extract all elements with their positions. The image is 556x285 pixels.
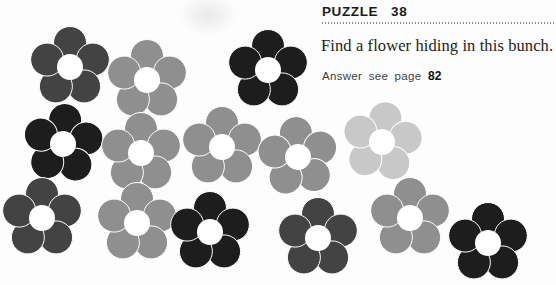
flower-dark-gray[interactable]: [276, 196, 360, 280]
flower-black[interactable]: [168, 190, 252, 274]
puzzle-title: PUZZLE 38: [322, 4, 556, 19]
flower-icon: [21, 102, 105, 186]
instruction-text: Find a flower hiding in this bunch.: [321, 36, 553, 56]
puzzle-page: PUZZLE 38 Find a flower hiding in this b…: [0, 0, 556, 285]
flower-gray[interactable]: [105, 38, 189, 122]
flower-icon: [446, 201, 530, 285]
flower-icon: [168, 190, 252, 274]
flower-gray[interactable]: [256, 115, 340, 199]
flower-black[interactable]: [21, 102, 105, 186]
flower-gray[interactable]: [368, 176, 452, 260]
flower-dark-gray[interactable]: [0, 176, 84, 260]
flower-black[interactable]: [446, 201, 530, 285]
puzzle-label: PUZZLE: [322, 4, 378, 19]
puzzle-header: PUZZLE 38: [322, 4, 556, 24]
flower-dark-gray[interactable]: [28, 25, 112, 109]
flower-icon: [180, 105, 264, 189]
flower-icon: [256, 115, 340, 199]
flower-icon: [340, 100, 424, 184]
flower-icon: [0, 176, 84, 260]
answer-prefix: Answer see page: [322, 70, 421, 82]
dotted-rule: [322, 22, 556, 24]
answer-page-number: 82: [428, 69, 442, 83]
flower-icon: [276, 196, 360, 280]
flower-icon: [368, 176, 452, 260]
flower-black[interactable]: [226, 28, 310, 112]
flower-icon: [28, 25, 112, 109]
answer-line: Answer see page 82: [322, 69, 442, 83]
flower-gray[interactable]: [180, 105, 264, 189]
puzzle-number: 38: [391, 4, 407, 19]
flower-icon: [105, 38, 189, 122]
flower-gray[interactable]: [95, 181, 179, 265]
flower-icon: [95, 181, 179, 265]
flower-light-gray[interactable]: [340, 100, 424, 184]
flower-icon: [226, 28, 310, 112]
